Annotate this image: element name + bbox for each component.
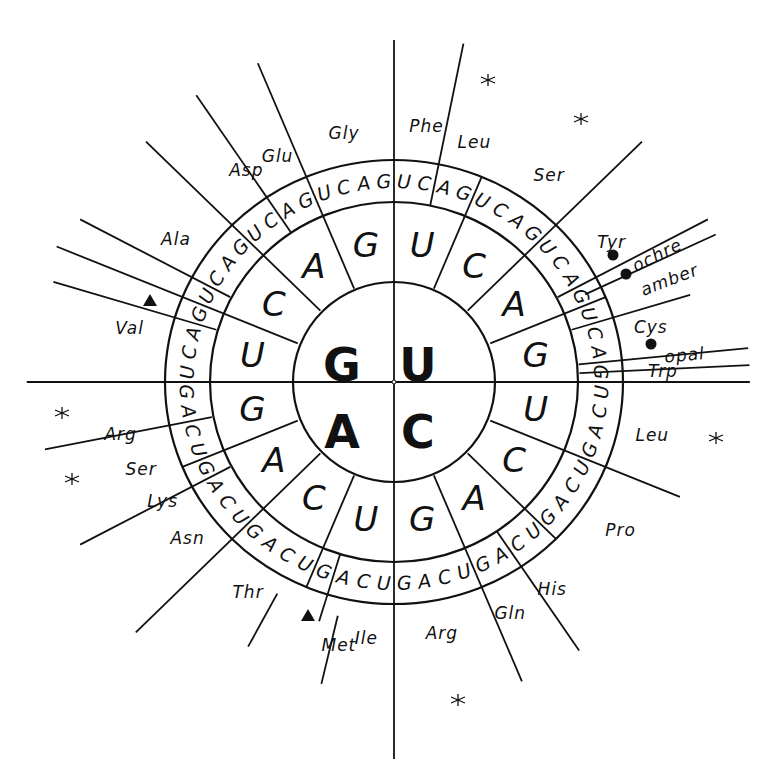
amino-acid-arg: Arg	[425, 623, 458, 643]
amino-acid-gln: Gln	[494, 603, 526, 623]
amino-acid-lys: Lys	[147, 491, 178, 511]
start-codon-triangle-icon	[143, 294, 157, 306]
amino-acid-trp: Trp	[648, 361, 678, 381]
third-base-G: G	[590, 364, 613, 380]
amino-acid-his: His	[538, 579, 567, 599]
second-base-A: A	[500, 284, 525, 324]
amino-acid-leu: Leu	[635, 425, 669, 445]
third-base-C: C	[587, 403, 611, 420]
third-base-C: C	[177, 344, 201, 361]
asterisk-icon	[709, 432, 723, 444]
amino-acid-tyr: Tyr	[597, 232, 626, 252]
genetic-code-wheel: UCAG UCAGUCAGUCAGUCAG UCAGUCAGUCAGUCAGUC…	[0, 0, 783, 759]
third-base-C: C	[583, 324, 608, 343]
sector-dividers	[27, 40, 750, 759]
stop-codon-dot-icon	[608, 250, 619, 261]
amino-acid-glu: Glu	[262, 146, 294, 166]
amino-acid-val: Val	[115, 318, 144, 338]
third-base-C: C	[203, 267, 229, 290]
amino-acid-gly: Gly	[329, 123, 360, 143]
second-base-G: G	[239, 389, 265, 429]
second-base-C: C	[262, 284, 286, 324]
third-base-A: A	[180, 324, 205, 344]
second-base-C: C	[302, 478, 326, 518]
asterisk-icon	[481, 74, 495, 86]
second-base-U: U	[353, 499, 378, 539]
amino-acid-leu: Leu	[457, 132, 491, 152]
third-base-C: C	[355, 569, 372, 593]
third-base-A: A	[582, 422, 607, 442]
third-base-U: U	[376, 571, 391, 594]
second-base-G: G	[353, 225, 379, 265]
amino-acid-ile: Ile	[355, 628, 378, 648]
stop-codon-dot-icon	[621, 269, 632, 280]
first-base-A: A	[324, 405, 360, 459]
third-base-C: C	[489, 197, 512, 223]
third-base-C: C	[259, 207, 283, 233]
second-base-A: A	[260, 440, 285, 480]
second-base-C: C	[502, 440, 526, 480]
third-base-A: A	[414, 569, 432, 593]
second-base-U: U	[410, 225, 435, 265]
third-base-C: C	[548, 250, 574, 274]
second-base-G: G	[409, 499, 435, 539]
second-base-C: C	[462, 246, 486, 286]
third-base-C: C	[181, 422, 206, 441]
first-base-G: G	[323, 338, 361, 392]
third-base-U: U	[176, 365, 199, 380]
third-base-G: G	[176, 384, 199, 400]
start-codon-triangle-icon	[301, 609, 315, 621]
third-base-U: U	[397, 170, 412, 193]
amino-acid-cys: Cys	[634, 317, 668, 337]
third-base-C: C	[416, 171, 433, 195]
second-base-A: A	[461, 478, 486, 518]
third-base-C: C	[335, 175, 354, 200]
sector-divider-line	[136, 453, 321, 632]
third-base-C: C	[559, 473, 585, 496]
third-base-A: A	[587, 342, 611, 360]
stop-codon-dot-icon	[646, 339, 657, 350]
center-dot	[392, 380, 396, 384]
third-base-A: A	[354, 171, 372, 195]
amino-acid-ser: Ser	[534, 165, 565, 185]
first-base-C: C	[401, 405, 435, 459]
amino-acid-ser: Ser	[126, 459, 157, 479]
amino-acid-asp: Asp	[228, 160, 263, 180]
third-base-A: A	[177, 401, 201, 419]
first-base-labels: UCAG	[323, 338, 437, 459]
asterisk-icon	[65, 473, 79, 485]
third-base-C: C	[276, 542, 299, 568]
amino-acid-met: Met	[321, 635, 356, 655]
second-base-A: A	[300, 246, 325, 286]
asterisk-icon	[451, 694, 465, 706]
amino-acid-asn: Asn	[169, 528, 204, 548]
amino-acid-thr: Thr	[232, 582, 263, 602]
second-base-U: U	[523, 389, 548, 429]
third-base-G: G	[376, 170, 392, 193]
amino-acid-arg: Arg	[103, 424, 136, 444]
first-base-U: U	[399, 338, 436, 392]
amino-acid-phe: Phe	[409, 116, 444, 136]
asterisk-icon	[574, 113, 588, 125]
second-base-U: U	[240, 335, 265, 375]
amino-acid-ala: Ala	[160, 229, 191, 249]
third-base-A: A	[488, 542, 512, 569]
amino-acid-pro: Pro	[605, 520, 636, 540]
third-base-A: A	[274, 197, 298, 224]
asterisk-icon	[55, 407, 69, 419]
third-base-U: U	[590, 384, 613, 399]
third-base-G: G	[396, 571, 412, 594]
third-base-C: C	[435, 565, 454, 590]
second-base-G: G	[522, 335, 548, 375]
